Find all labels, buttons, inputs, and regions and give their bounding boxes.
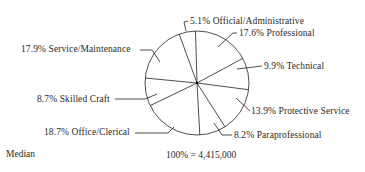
leader-line	[214, 123, 232, 135]
leader-line	[218, 33, 237, 47]
label-office-clerical: 18.7% Office/Clerical	[44, 127, 130, 137]
label-technical: 9.9% Technical	[264, 61, 324, 71]
leader-line	[135, 127, 174, 133]
slice-boundary	[197, 83, 200, 135]
slice-boundary	[179, 34, 197, 83]
label-paraprofessional: 8.2% Paraprofessional	[234, 130, 322, 140]
label-skilled-craft: 8.7% Skilled Craft	[37, 94, 110, 104]
median-label: Median	[6, 149, 35, 159]
slice-boundary	[197, 83, 225, 127]
slice-boundary	[145, 78, 197, 83]
leader-line	[236, 98, 250, 111]
slice-boundary	[196, 31, 198, 83]
leader-line	[184, 21, 188, 31]
label-professional: 17.6% Professional	[239, 28, 315, 38]
pie-chart	[0, 0, 365, 172]
leader-lines	[115, 21, 262, 135]
pie-center-dot	[196, 82, 198, 84]
leader-line	[237, 66, 262, 69]
slice-boundary	[197, 58, 243, 83]
total-label: 100% = 4,415,000	[166, 150, 236, 160]
slice-boundary	[197, 83, 249, 90]
slice-boundary	[150, 83, 197, 106]
label-protective-service: 13.9% Protective Service	[251, 106, 350, 116]
leader-line	[115, 94, 157, 99]
label-service-maintenance: 17.9% Service/Maintenance	[21, 44, 131, 54]
label-official-administrative: 5.1% Official/Administrative	[190, 16, 304, 26]
